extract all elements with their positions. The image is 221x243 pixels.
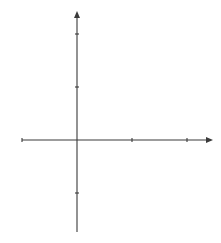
axes <box>22 11 213 232</box>
y-axis-arrow-icon <box>74 11 80 18</box>
function-graph <box>0 0 221 243</box>
x-axis-arrow-icon <box>206 137 213 143</box>
